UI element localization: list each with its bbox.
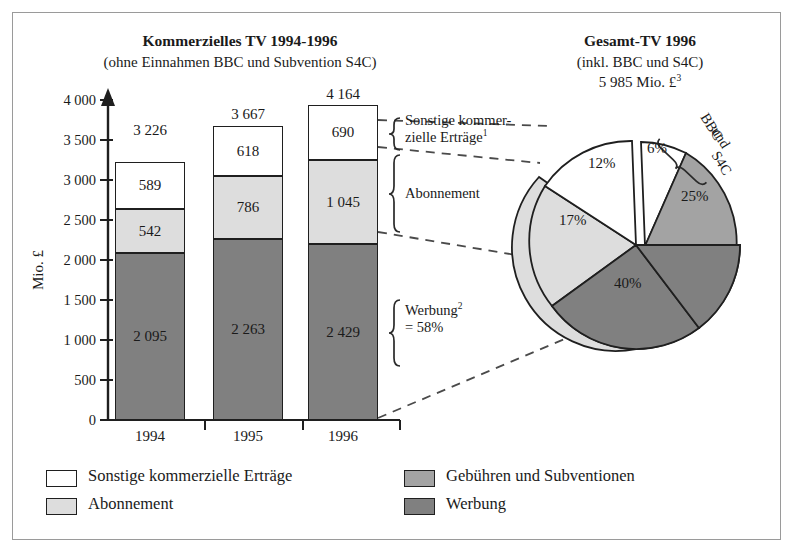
annotation-abonnement: Abonnement bbox=[405, 185, 480, 202]
annotation-werbung-text: Werbung bbox=[405, 302, 458, 318]
bar-segment-1995-abonnement: 786 bbox=[213, 176, 283, 239]
bar-segment-1994-sonstige: 589 bbox=[115, 162, 185, 209]
legend-label-sonstige: Sonstige kommerzielle Erträge bbox=[88, 466, 292, 486]
x-tick-1995: 1995 bbox=[208, 428, 288, 445]
x-tick-1996: 1996 bbox=[303, 428, 383, 445]
annotation-sonstige-line2: zielle Erträge1 bbox=[405, 129, 511, 146]
y-tick-4000: 4 000 bbox=[30, 92, 96, 109]
bar-segment-1996-werbung: 2 429 bbox=[308, 244, 378, 420]
y-tick-1000: 1 000 bbox=[30, 332, 96, 349]
pie-label-12: 12% bbox=[588, 155, 616, 172]
annotation-sonstige: Sonstige kommer- zielle Erträge1 bbox=[405, 112, 511, 146]
legend-label-werbung: Werbung bbox=[446, 494, 506, 514]
annotation-werbung-pct: = 58% bbox=[405, 319, 463, 336]
bar-segment-1996-abonnement: 1 045 bbox=[308, 160, 378, 244]
bar-segment-1994-werbung: 2 095 bbox=[115, 253, 185, 420]
legend-swatch-sonstige bbox=[46, 470, 77, 487]
y-tick-500: 500 bbox=[30, 372, 96, 389]
y-tick-3000: 3 000 bbox=[30, 172, 96, 189]
annotation-sonstige-footnote: 1 bbox=[483, 128, 488, 138]
bar-segment-1996-sonstige: 690 bbox=[308, 105, 378, 160]
annotation-werbung: Werbung2 = 58% bbox=[405, 302, 463, 336]
annotation-sonstige-text2: zielle Erträge bbox=[405, 129, 483, 145]
legend-label-gebuehren: Gebühren und Subventionen bbox=[446, 466, 635, 486]
y-tick-3500: 3 500 bbox=[30, 132, 96, 149]
annotation-werbung-footnote: 2 bbox=[458, 301, 463, 311]
y-tick-0: 0 bbox=[30, 412, 96, 429]
pie-label-40: 40% bbox=[614, 275, 642, 292]
y-tick-1500: 1 500 bbox=[30, 292, 96, 309]
bar-total-1996: 4 164 bbox=[303, 86, 383, 103]
pie-label-17: 17% bbox=[559, 212, 587, 229]
bar-segment-1995-sonstige: 618 bbox=[213, 126, 283, 176]
annotation-werbung-line1: Werbung2 bbox=[405, 302, 463, 319]
legend-swatch-gebuehren bbox=[404, 470, 435, 487]
legend-swatch-werbung bbox=[404, 498, 435, 515]
y-axis-title: Mio. £ bbox=[30, 250, 47, 290]
bar-total-1995: 3 667 bbox=[208, 106, 288, 123]
annotation-sonstige-line1: Sonstige kommer- bbox=[405, 112, 511, 129]
legend-label-abonnement: Abonnement bbox=[88, 494, 173, 514]
bar-total-1994: 3 226 bbox=[110, 122, 190, 139]
chart-figure: Kommerzielles TV 1994-1996 (ohne Einnahm… bbox=[0, 0, 795, 554]
y-tick-2500: 2 500 bbox=[30, 212, 96, 229]
bar-segment-1995-werbung: 2 263 bbox=[213, 239, 283, 420]
pie-chart bbox=[512, 141, 740, 351]
legend-swatch-abonnement bbox=[46, 498, 77, 515]
pie-label-6: 6% bbox=[647, 140, 667, 157]
bar-segment-1994-abonnement: 542 bbox=[115, 209, 185, 253]
x-tick-1994: 1994 bbox=[110, 428, 190, 445]
pie-label-25: 25% bbox=[681, 188, 709, 205]
